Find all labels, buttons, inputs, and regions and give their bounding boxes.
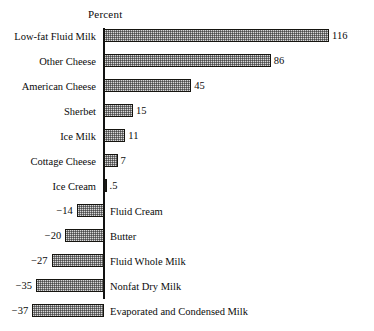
- bar-row: Cottage Cheese7: [0, 152, 374, 177]
- bar-value-label: 86: [274, 54, 285, 68]
- bar-value-label: .5: [110, 179, 118, 193]
- bar-value-label: 11: [128, 129, 138, 143]
- bar-category-label: Ice Cream: [53, 180, 96, 194]
- bar-row: American Cheese45: [0, 77, 374, 102]
- bar-value-label: 7: [121, 154, 126, 168]
- bar: [104, 29, 329, 42]
- bar-value-label: −37: [12, 304, 28, 318]
- bar: [52, 254, 104, 267]
- bar: [36, 279, 104, 292]
- bar-category-label: Ice Milk: [60, 130, 96, 144]
- bar: [77, 204, 104, 217]
- bar-value-label: −35: [16, 279, 32, 293]
- bar-value-label: −20: [45, 229, 61, 243]
- bar-category-label: American Cheese: [22, 80, 96, 94]
- bar-row: Butter−20: [0, 227, 374, 252]
- bar: [104, 104, 133, 117]
- bar-category-label: Sherbet: [64, 105, 96, 119]
- bar-row: Sherbet15: [0, 102, 374, 127]
- bar-category-label: Other Cheese: [39, 55, 96, 69]
- bar-category-label: Low-fat Fluid Milk: [14, 30, 96, 44]
- bar: [65, 229, 104, 242]
- bar-row: Fluid Whole Milk−27: [0, 252, 374, 277]
- bar-value-label: 116: [332, 29, 347, 43]
- bar-row: Fluid Cream−14: [0, 202, 374, 227]
- bar: [104, 79, 191, 92]
- bar-category-label: Fluid Cream: [110, 205, 163, 219]
- bar: [104, 129, 125, 142]
- bar-value-label: 45: [194, 79, 205, 93]
- bar: [104, 179, 107, 192]
- bar-row: Low-fat Fluid Milk116: [0, 27, 374, 52]
- bar-row: Evaporated and Condensed Milk−37: [0, 302, 374, 327]
- bar-row: Other Cheese86: [0, 52, 374, 77]
- bar-row: Ice Cream.5: [0, 177, 374, 202]
- bar-value-label: −14: [56, 204, 72, 218]
- bar-category-label: Nonfat Dry Milk: [110, 280, 181, 294]
- bar-row: Nonfat Dry Milk−35: [0, 277, 374, 302]
- bar-value-label: 15: [136, 104, 147, 118]
- bar: [104, 154, 118, 167]
- bar-category-label: Cottage Cheese: [30, 155, 96, 169]
- bar-rows: Low-fat Fluid Milk116Other Cheese86Ameri…: [0, 0, 374, 331]
- bar-category-label: Butter: [110, 230, 136, 244]
- bar-value-label: −27: [31, 254, 47, 268]
- bar-chart: Percent Low-fat Fluid Milk116Other Chees…: [0, 0, 374, 331]
- bar-row: Ice Milk11: [0, 127, 374, 152]
- bar-category-label: Fluid Whole Milk: [110, 255, 186, 269]
- bar: [104, 54, 271, 67]
- bar: [32, 304, 104, 317]
- bar-category-label: Evaporated and Condensed Milk: [110, 305, 248, 319]
